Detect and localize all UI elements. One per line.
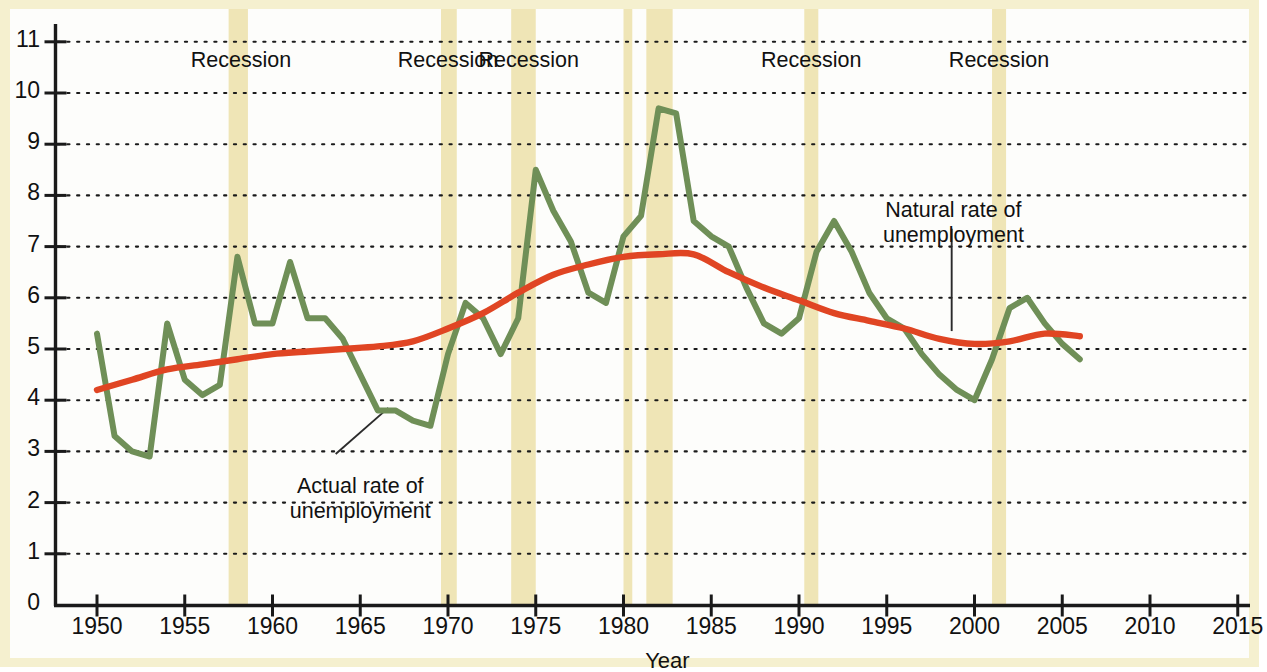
y-axis-tick-label: 1 bbox=[0, 538, 40, 565]
y-axis-tick-label: 9 bbox=[0, 128, 40, 155]
x-axis-tick-label: 1990 bbox=[759, 613, 839, 640]
x-axis-tick-label: 1995 bbox=[847, 613, 927, 640]
actual-rate-annotation: Actual rate ofunemployment bbox=[290, 474, 431, 524]
x-axis-tick-label: 2005 bbox=[1022, 613, 1102, 640]
y-axis-tick-label: 4 bbox=[0, 384, 40, 411]
x-axis-tick-label: 1975 bbox=[496, 613, 576, 640]
annotation-line: unemployment bbox=[290, 499, 431, 524]
x-axis-tick-label: 2000 bbox=[935, 613, 1015, 640]
annotation-line: Actual rate of bbox=[290, 474, 431, 499]
annotation-line: Natural rate of bbox=[883, 198, 1024, 223]
x-axis-tick-label: 1980 bbox=[584, 613, 664, 640]
y-axis-tick-label: 6 bbox=[0, 282, 40, 309]
recession-band bbox=[646, 9, 672, 605]
recession-band bbox=[992, 9, 1006, 605]
recession-band-label: Recession bbox=[909, 48, 1089, 73]
x-axis-tick-label: 1985 bbox=[671, 613, 751, 640]
recession-band-label: Recession bbox=[151, 48, 331, 73]
y-axis-tick-label: 11 bbox=[0, 26, 40, 53]
recession-band bbox=[511, 9, 536, 605]
x-axis-tick-label: 1950 bbox=[57, 613, 137, 640]
x-axis-tick-label: 2015 bbox=[1198, 613, 1267, 640]
x-axis-tick-label: 1970 bbox=[408, 613, 488, 640]
x-axis-tick-label: 1955 bbox=[145, 613, 225, 640]
x-axis-title: Year bbox=[607, 648, 727, 672]
y-axis-tick-label: 7 bbox=[0, 231, 40, 258]
recession-band-label: Recession bbox=[439, 48, 619, 73]
leader-line bbox=[336, 408, 389, 454]
y-axis-tick-label: 5 bbox=[0, 333, 40, 360]
y-axis-tick-label: 10 bbox=[0, 77, 40, 104]
annotation-line: unemployment bbox=[883, 223, 1024, 248]
x-axis-tick-label: 2010 bbox=[1110, 613, 1190, 640]
x-axis-tick-label: 1960 bbox=[233, 613, 313, 640]
y-axis-tick-label: 2 bbox=[0, 487, 40, 514]
recession-band bbox=[624, 9, 633, 605]
y-axis-tick-label: 0 bbox=[0, 589, 40, 616]
y-axis-tick-label: 8 bbox=[0, 179, 40, 206]
y-axis-tick-label: 3 bbox=[0, 435, 40, 462]
x-axis-tick-label: 1965 bbox=[320, 613, 400, 640]
recession-band-label: Recession bbox=[721, 48, 901, 73]
recession-band bbox=[441, 9, 457, 605]
natural-rate-annotation: Natural rate ofunemployment bbox=[883, 198, 1024, 248]
